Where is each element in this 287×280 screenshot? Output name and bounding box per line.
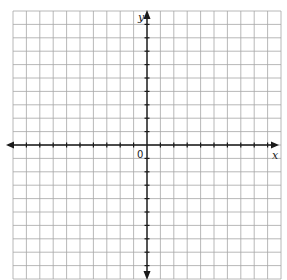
x-axis-right-arrow-icon bbox=[271, 142, 279, 149]
axes bbox=[6, 10, 279, 280]
x-axis-left-arrow-icon bbox=[6, 142, 14, 149]
y-axis-label: y bbox=[137, 11, 145, 24]
origin-label: 0 bbox=[137, 149, 143, 160]
x-axis-label: x bbox=[272, 149, 279, 162]
coordinate-plane: x y 0 bbox=[0, 0, 287, 280]
